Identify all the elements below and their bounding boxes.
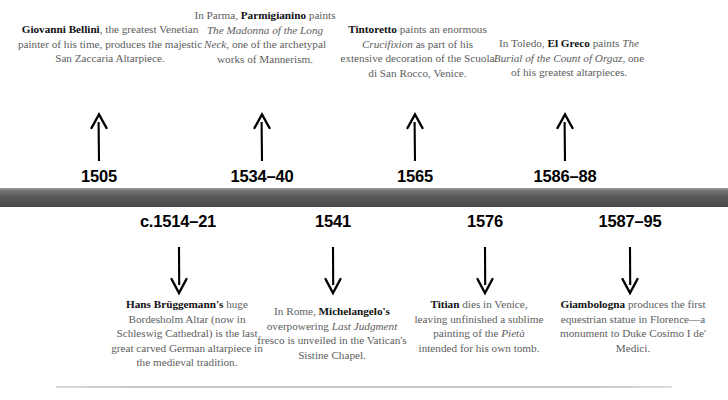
arrow-up-icon-2 [404, 108, 426, 162]
event-note-below-3: Giambologna produces the first equestria… [557, 297, 709, 355]
event-note-below-2: Titian dies in Venice, leaving unfinishe… [413, 297, 545, 355]
arrow-down-icon-2 [474, 247, 496, 299]
date-label-below-0: c.1514–21 [118, 212, 238, 231]
date-label-below-1: 1541 [283, 212, 383, 231]
date-label-above-2: 1565 [365, 167, 465, 186]
date-label-below-2: 1576 [435, 212, 535, 231]
arrow-down-icon-3 [619, 247, 641, 299]
date-label-below-3: 1587–95 [570, 212, 690, 231]
footer-divider [56, 386, 672, 388]
arrow-up-icon-0 [88, 108, 110, 162]
event-note-above-3: In Toledo, El Greco paints The Burial of… [493, 36, 645, 80]
arrow-down-icon-1 [322, 247, 344, 299]
event-note-above-1: In Parma, Parmigianino paints The Madonn… [194, 8, 336, 66]
arrow-down-icon-0 [168, 247, 190, 299]
arrow-up-icon-3 [554, 108, 576, 162]
date-label-above-0: 1505 [49, 167, 149, 186]
date-label-above-3: 1586–88 [505, 167, 625, 186]
event-note-above-0: Giovanni Bellini, the greatest Venetian … [14, 22, 206, 66]
timeline-infographic: Giovanni Bellini, the greatest Venetian … [0, 0, 728, 400]
arrow-up-icon-1 [251, 108, 273, 162]
timeline-bar [0, 188, 728, 207]
event-note-below-0: Hans Brüggemann's huge Bordesholm Altar … [106, 297, 268, 370]
event-note-below-1: In Rome, Michelangelo's overpowering Las… [257, 304, 407, 362]
event-note-above-2: Tintoretto paints an enormous Crucifixio… [340, 22, 495, 80]
date-label-above-1: 1534–40 [202, 167, 322, 186]
